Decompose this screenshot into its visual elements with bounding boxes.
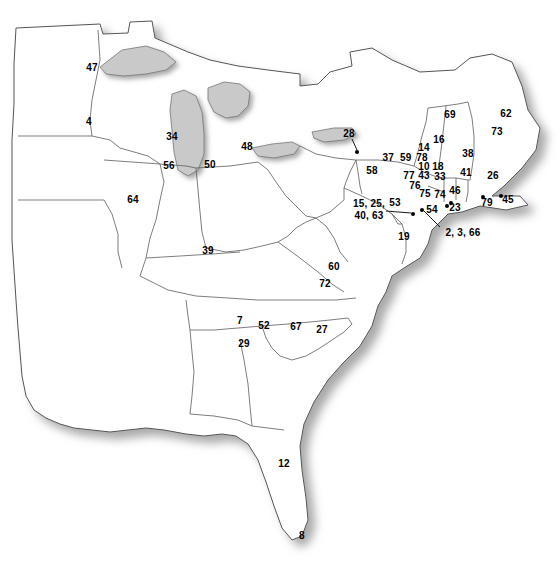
map-label: 37 59 — [382, 152, 411, 163]
site-dot — [411, 212, 415, 216]
map-label: 38 — [462, 148, 474, 159]
map-label: 60 — [328, 261, 340, 272]
map-label: 50 — [204, 159, 216, 170]
map-label: 45 — [502, 194, 514, 205]
map-label: 16 — [433, 134, 445, 145]
map-label: 78 — [416, 152, 428, 163]
label-layer: 4743448565064392837 595815, 25, 40, 6319… — [0, 0, 560, 562]
map-label: 53 — [389, 197, 401, 208]
map-label: 28 — [343, 128, 355, 139]
map-label: 79 — [481, 197, 493, 208]
map-label: 26 — [487, 170, 499, 181]
map-label: 29 — [238, 338, 250, 349]
map-label: 48 — [241, 141, 253, 152]
map-label: 62 — [500, 108, 512, 119]
eastern-us-reference-map: 4743448565064392837 595815, 25, 40, 6319… — [0, 0, 560, 562]
map-label: 69 — [444, 109, 456, 120]
map-label: 67 — [290, 321, 302, 332]
map-label: 46 — [449, 185, 461, 196]
map-label: 12 — [278, 458, 290, 469]
map-label: 73 — [491, 126, 503, 137]
map-label: 74 — [434, 189, 446, 200]
site-dot — [355, 150, 359, 154]
map-label: 7 — [237, 315, 243, 326]
map-label: 58 — [366, 165, 378, 176]
map-label: 19 — [398, 231, 410, 242]
map-label: 39 — [202, 245, 214, 256]
map-label: 4 — [86, 116, 92, 127]
map-label: 54 — [426, 204, 438, 215]
map-label: 23 — [449, 202, 461, 213]
map-label: 52 — [258, 320, 270, 331]
map-label: 64 — [127, 194, 139, 205]
map-label: 56 — [163, 160, 175, 171]
map-label: 8 — [299, 530, 305, 541]
map-label: 34 — [166, 131, 178, 142]
map-label: 33 — [434, 171, 446, 182]
site-dot — [420, 208, 424, 212]
map-label: 41 — [460, 167, 472, 178]
map-label: 72 — [319, 278, 331, 289]
map-label: 27 — [316, 324, 328, 335]
map-label: 47 — [86, 62, 98, 73]
map-label: 2, 3, 66 — [446, 227, 481, 238]
map-label: 77 — [403, 170, 415, 181]
map-label: 75 — [419, 188, 431, 199]
map-label: 15, 25, 40, 63 — [353, 198, 385, 222]
